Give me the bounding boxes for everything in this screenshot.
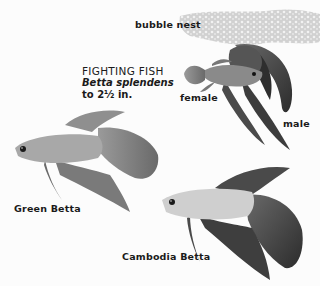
label-bubble-nest: bubble nest	[135, 19, 201, 30]
size-info: to 2½ in.	[82, 89, 174, 101]
common-name: FIGHTING FISH	[82, 65, 174, 77]
label-male: male	[283, 118, 310, 129]
green-betta-fish	[15, 111, 158, 212]
label-green-betta: Green Betta	[14, 203, 81, 214]
species-title: FIGHTING FISH Betta splendens to 2½ in.	[82, 65, 174, 101]
label-female: female	[180, 92, 218, 103]
illustration	[0, 0, 320, 286]
scientific-name: Betta splendens	[82, 77, 174, 89]
cambodia-betta-fish	[162, 167, 303, 280]
label-cambodia-betta: Cambodia Betta	[122, 251, 210, 262]
